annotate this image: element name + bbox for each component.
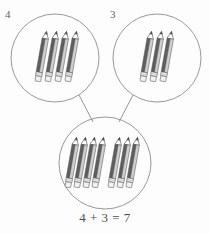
part-part-whole-diagram — [0, 0, 210, 234]
left-pencil-group[interactable] — [11, 14, 99, 102]
right-group-count-label: 3 — [110, 9, 116, 20]
connector-line-icon — [79, 95, 133, 122]
total-pencil-group[interactable] — [59, 117, 151, 209]
equation-text: 4 + 3 = 7 — [0, 210, 210, 226]
diagram-canvas: 4 3 4 + 3 = 7 — [0, 0, 210, 234]
right-pencil-group[interactable] — [113, 14, 201, 102]
left-group-count-label: 4 — [5, 9, 11, 20]
